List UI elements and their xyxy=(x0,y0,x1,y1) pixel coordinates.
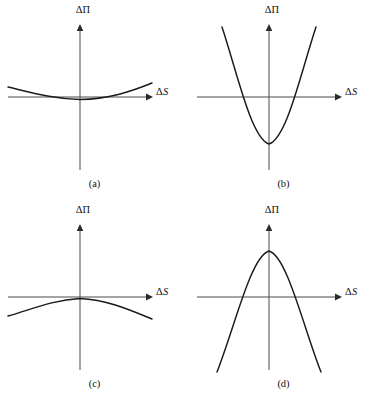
x-axis-arrowhead xyxy=(146,94,153,101)
panel-d: ΔΠ ΔS (d) xyxy=(189,200,378,399)
x-axis-arrowhead xyxy=(335,294,342,301)
panel-caption-b: (b) xyxy=(189,178,378,189)
x-axis-label: ΔS xyxy=(345,286,357,297)
x-axis-label: ΔS xyxy=(156,86,168,97)
panel-a-plot xyxy=(0,0,189,199)
x-axis-label: ΔS xyxy=(156,286,168,297)
y-axis-label: ΔΠ xyxy=(63,204,103,215)
y-axis-label: ΔΠ xyxy=(252,4,292,15)
panel-b: ΔΠ ΔS (b) xyxy=(189,0,378,199)
x-axis-label-delta: Δ xyxy=(345,286,352,297)
x-axis-label-delta: Δ xyxy=(156,286,163,297)
panel-c-plot xyxy=(0,200,189,399)
y-axis-label: ΔΠ xyxy=(252,204,292,215)
y-axis-arrowhead xyxy=(77,24,84,31)
y-axis-label: ΔΠ xyxy=(63,4,103,15)
y-axis-arrowhead xyxy=(77,224,84,231)
panel-a: ΔΠ ΔS (a) xyxy=(0,0,189,199)
x-axis-label-var: S xyxy=(163,86,168,97)
panel-caption-c: (c) xyxy=(0,378,189,389)
panel-caption-d: (d) xyxy=(189,378,378,389)
x-axis-label-delta: Δ xyxy=(345,86,352,97)
panel-c: ΔΠ ΔS (c) xyxy=(0,200,189,399)
panel-d-plot xyxy=(189,200,378,399)
x-axis-label-var: S xyxy=(352,86,357,97)
x-axis-label: ΔS xyxy=(345,86,357,97)
x-axis-label-delta: Δ xyxy=(156,86,163,97)
x-axis-label-var: S xyxy=(352,286,357,297)
panel-caption-a: (a) xyxy=(0,178,189,189)
x-axis-arrowhead xyxy=(335,94,342,101)
x-axis-arrowhead xyxy=(146,294,153,301)
y-axis-arrowhead xyxy=(266,224,273,231)
x-axis-label-var: S xyxy=(163,286,168,297)
panel-b-plot xyxy=(189,0,378,199)
y-axis-arrowhead xyxy=(266,24,273,31)
figure-container: ΔΠ ΔS (a) ΔΠ ΔS (b) ΔΠ ΔS (c) xyxy=(0,0,378,399)
